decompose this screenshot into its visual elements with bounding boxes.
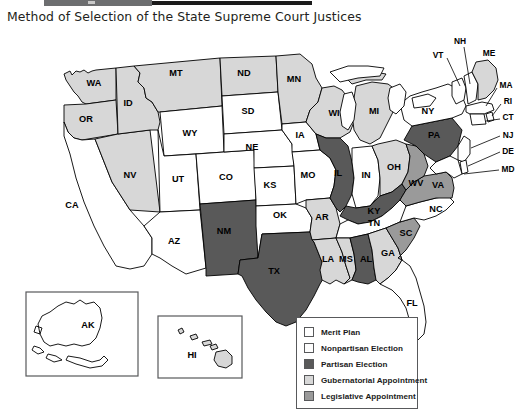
state-label-AK: AK — [81, 320, 95, 330]
legend-label-gubernatorial: Gubernatorial Appointment — [321, 376, 427, 385]
state-label-LA: LA — [322, 254, 335, 264]
state-label-MS: MS — [339, 254, 353, 264]
legend-item-partisan[interactable]: Partisan Election — [304, 356, 417, 372]
state-label-MI: MI — [369, 106, 379, 116]
state-MA — [466, 102, 494, 114]
state-label-WY: WY — [183, 128, 198, 138]
map-legend: Merit Plan Nonpartisan Election Partisan… — [296, 317, 418, 409]
legend-swatch-nonpartisan-icon — [304, 343, 314, 353]
state-label-NJ: NJ — [503, 130, 514, 140]
state-label-AL: AL — [360, 254, 373, 264]
legend-swatch-legislative-icon — [304, 391, 314, 401]
legend-label-merit: Merit Plan — [321, 328, 360, 337]
state-label-ND: ND — [237, 68, 251, 78]
state-CT — [470, 114, 486, 125]
state-label-OK: OK — [273, 210, 287, 220]
state-label-KY: KY — [368, 206, 381, 216]
state-label-MA: MA — [499, 80, 512, 90]
state-label-VT: VT — [433, 50, 445, 60]
legend-swatch-gubernatorial-icon — [304, 375, 314, 385]
state-label-SC: SC — [400, 228, 413, 238]
us-map: WA OR CA NV ID MT WY UT AZ CO NM ND SD N… — [0, 26, 526, 412]
legend-item-legislative[interactable]: Legislative Appointment — [304, 388, 417, 404]
hawaii-inset-box — [158, 316, 242, 378]
state-label-FL: FL — [406, 298, 418, 308]
leader-line-NJ — [471, 136, 500, 148]
top-bar-dark-segment — [152, 1, 312, 5]
state-label-MO: MO — [301, 170, 316, 180]
state-label-CA: CA — [65, 200, 79, 210]
state-label-MT: MT — [169, 68, 183, 78]
legend-item-merit[interactable]: Merit Plan — [304, 324, 417, 340]
state-label-CT: CT — [502, 112, 514, 122]
page-title: Method of Selection of the State Supreme… — [7, 9, 362, 24]
state-label-WV: WV — [409, 178, 425, 188]
state-label-IA: IA — [295, 130, 305, 140]
state-label-WI: WI — [328, 108, 339, 118]
state-label-WA: WA — [87, 78, 102, 88]
state-label-NV: NV — [124, 170, 138, 180]
state-label-PA: PA — [428, 130, 440, 140]
leader-line-DE — [468, 152, 500, 166]
page-top-bar — [0, 0, 526, 7]
state-label-OH: OH — [387, 162, 401, 172]
leader-line-MD — [464, 170, 499, 174]
legend-swatch-partisan-icon — [304, 359, 314, 369]
legend-swatch-merit-icon — [304, 327, 314, 337]
state-label-VA: VA — [432, 180, 444, 190]
state-label-ME: ME — [483, 48, 496, 58]
legend-item-nonpartisan[interactable]: Nonpartisan Election — [304, 340, 417, 356]
legend-label-partisan: Partisan Election — [321, 360, 388, 369]
top-bar-grey-segment — [44, 0, 152, 6]
state-VT — [452, 78, 466, 104]
state-label-RI: RI — [504, 96, 512, 106]
state-label-NY: NY — [422, 106, 435, 116]
state-label-MN: MN — [287, 74, 302, 84]
state-label-NE: NE — [246, 142, 259, 152]
state-label-AZ: AZ — [168, 236, 181, 246]
state-label-MD: MD — [501, 164, 514, 174]
state-label-SD: SD — [242, 106, 255, 116]
state-label-KS: KS — [264, 180, 277, 190]
state-label-TX: TX — [268, 266, 281, 276]
state-label-NC: NC — [429, 204, 443, 214]
state-label-NM: NM — [217, 226, 232, 236]
state-label-ID: ID — [123, 98, 133, 108]
state-label-NH: NH — [454, 36, 466, 46]
top-bar-highlight — [88, 1, 95, 4]
state-label-IL: IL — [334, 168, 343, 178]
state-label-HI: HI — [187, 350, 196, 360]
state-label-UT: UT — [172, 174, 185, 184]
state-label-GA: GA — [381, 248, 395, 258]
state-label-CO: CO — [219, 172, 233, 182]
state-label-IN: IN — [361, 170, 371, 180]
legend-item-gubernatorial[interactable]: Gubernatorial Appointment — [304, 372, 417, 388]
state-label-OR: OR — [79, 114, 93, 124]
legend-label-nonpartisan: Nonpartisan Election — [321, 344, 403, 353]
state-label-TN: TN — [368, 218, 381, 228]
state-label-AR: AR — [315, 212, 329, 222]
state-label-DE: DE — [502, 146, 514, 156]
legend-label-legislative: Legislative Appointment — [321, 392, 416, 401]
